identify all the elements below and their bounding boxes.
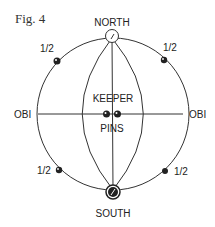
half-label-top-right: 1/2 bbox=[163, 42, 177, 53]
half-marker-top-right bbox=[161, 57, 167, 63]
half-label-bottom-left: 1/2 bbox=[37, 165, 51, 176]
half-marker-top-left-highlight bbox=[55, 59, 57, 61]
obi-left-label: OBI bbox=[14, 109, 31, 120]
keeper-label: KEEPER bbox=[93, 93, 134, 104]
half-marker-bottom-left bbox=[56, 167, 62, 173]
pins-label: PINS bbox=[100, 123, 124, 134]
keeper-pin-right bbox=[114, 111, 121, 118]
half-marker-bottom-left-highlight bbox=[57, 168, 59, 170]
temari-diagram: NORTH SOUTH KEEPER PINS OBI OBI 1/2 1/2 … bbox=[0, 0, 215, 227]
half-marker-top-left bbox=[54, 58, 61, 65]
pin-highlight-left bbox=[105, 112, 107, 114]
north-label: NORTH bbox=[94, 17, 129, 28]
obi-right-label: OBI bbox=[189, 109, 206, 120]
south-label: SOUTH bbox=[96, 208, 131, 219]
half-label-top-left: 1/2 bbox=[40, 43, 54, 54]
pin-highlight-right bbox=[116, 112, 118, 114]
half-marker-bottom-right bbox=[162, 168, 168, 174]
half-label-bottom-right: 1/2 bbox=[174, 166, 188, 177]
keeper-pin-left bbox=[103, 111, 110, 118]
north-pole-marker bbox=[106, 30, 119, 43]
half-marker-top-right-highlight bbox=[162, 58, 164, 60]
